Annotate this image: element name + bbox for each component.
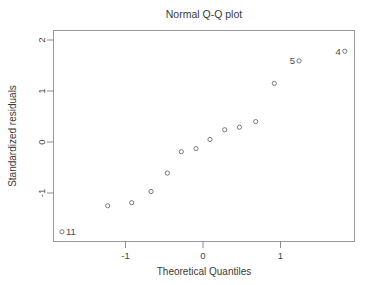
data-point-label: 11: [66, 226, 76, 237]
x-axis: -101: [121, 242, 283, 262]
data-point: [194, 147, 198, 151]
data-point: [60, 230, 64, 234]
y-tick-label: -1: [36, 189, 47, 197]
x-tick-label: 1: [278, 250, 283, 261]
data-point-label: 5: [290, 55, 295, 66]
data-point: [106, 204, 110, 208]
data-point: [297, 59, 301, 63]
chart-screenshot: Normal Q-Q plot 210-1 -101 Standardized …: [0, 0, 373, 285]
y-tick-label: 1: [36, 88, 47, 93]
data-point: [272, 81, 276, 85]
data-point: [254, 120, 258, 124]
qq-plot-figure: Normal Q-Q plot 210-1 -101 Standardized …: [0, 0, 373, 285]
y-tick-label: 0: [36, 139, 47, 144]
x-tick-label: -1: [121, 250, 129, 261]
data-point: [223, 128, 227, 132]
point-labels-layer: 1154: [66, 46, 341, 238]
data-point: [237, 125, 241, 129]
data-points-layer: [60, 49, 347, 234]
data-point-label: 4: [336, 46, 341, 57]
x-axis-label: Theoretical Quantiles: [157, 266, 252, 277]
data-point: [165, 171, 169, 175]
data-point: [208, 137, 212, 141]
data-point: [343, 49, 347, 53]
y-axis-label: Standardized residuals: [7, 85, 18, 187]
plot-frame: [54, 31, 355, 242]
x-tick-label: 0: [200, 250, 205, 261]
chart-title: Normal Q-Q plot: [166, 8, 243, 20]
y-axis: 210-1: [36, 37, 54, 197]
data-point: [149, 189, 153, 193]
data-point: [130, 201, 134, 205]
data-point: [179, 150, 183, 154]
y-tick-label: 2: [36, 37, 47, 42]
